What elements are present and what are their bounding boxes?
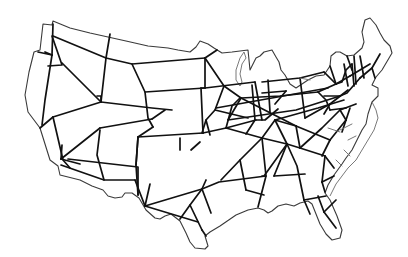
highway-segment bbox=[61, 128, 100, 159]
highway-segment bbox=[262, 138, 287, 144]
highway-segment bbox=[325, 156, 334, 168]
highway-segment bbox=[205, 82, 255, 88]
highway-segment bbox=[101, 58, 106, 102]
highway-segment bbox=[360, 54, 380, 78]
highway-segment bbox=[202, 189, 211, 213]
highway-segment bbox=[100, 119, 152, 128]
highway-segment bbox=[180, 189, 202, 219]
highway-segment bbox=[138, 133, 203, 137]
highway-segment bbox=[262, 91, 286, 93]
secondary-road-segment bbox=[336, 160, 342, 166]
highway-segment bbox=[274, 174, 305, 176]
highway-segment bbox=[97, 130, 135, 180]
highway-segment bbox=[296, 126, 300, 148]
highway-segment bbox=[372, 68, 375, 78]
highway-segment bbox=[268, 80, 270, 112]
highway-segment bbox=[101, 102, 172, 110]
map-canvas bbox=[0, 0, 408, 257]
highway-segment bbox=[61, 165, 104, 180]
highway-segment bbox=[61, 145, 62, 159]
highway-segment bbox=[340, 104, 356, 110]
highway-segment bbox=[145, 206, 198, 222]
highway-segment bbox=[201, 88, 203, 133]
highway-segment bbox=[346, 108, 350, 120]
highway-segment bbox=[132, 64, 153, 127]
highway-segment bbox=[53, 102, 101, 117]
highway-segment bbox=[296, 126, 330, 140]
highway-segment bbox=[135, 180, 145, 206]
highway-segment bbox=[300, 148, 325, 156]
highway-segment bbox=[226, 128, 262, 138]
highway-segment bbox=[191, 142, 200, 150]
highway-segment bbox=[240, 160, 246, 190]
lake-michigan-outline bbox=[236, 52, 246, 86]
highway-segment bbox=[262, 120, 275, 138]
highway-segment bbox=[190, 205, 202, 230]
highway-segment bbox=[145, 88, 205, 92]
highway-segment bbox=[258, 138, 266, 207]
highway-segment bbox=[340, 110, 346, 120]
highway-segment bbox=[354, 56, 356, 84]
highway-segment bbox=[322, 140, 330, 156]
highway-segment bbox=[202, 176, 266, 189]
highway-segment bbox=[152, 110, 165, 119]
highway-segment bbox=[330, 120, 346, 140]
highway-segment bbox=[252, 85, 255, 120]
highway-segment bbox=[304, 196, 326, 200]
secondary-road-segment bbox=[348, 136, 356, 140]
highway-network bbox=[38, 24, 380, 236]
highway-segment bbox=[53, 36, 106, 58]
highway-segment bbox=[106, 58, 205, 64]
highway-segment bbox=[318, 196, 324, 212]
highway-segment bbox=[203, 128, 226, 133]
highway-segment bbox=[145, 184, 150, 206]
highway-segment bbox=[62, 63, 101, 102]
highway-segment bbox=[48, 36, 62, 66]
highway-segment bbox=[201, 58, 205, 88]
highway-segment bbox=[300, 110, 340, 148]
highway-segment bbox=[106, 34, 110, 58]
highway-segment bbox=[322, 182, 325, 192]
us-highway-map bbox=[0, 0, 408, 257]
secondary-road-segment bbox=[300, 78, 310, 80]
highway-segment bbox=[205, 50, 217, 58]
highway-segment bbox=[322, 156, 325, 182]
highway-segment bbox=[318, 84, 336, 92]
highway-segment bbox=[215, 110, 248, 118]
east-coast-inner-outline bbox=[330, 102, 378, 196]
highway-segment bbox=[287, 144, 304, 200]
highway-segment bbox=[324, 212, 336, 228]
us-outline bbox=[25, 18, 392, 249]
highway-segment bbox=[221, 138, 262, 180]
highway-segment bbox=[145, 189, 202, 206]
highway-segment bbox=[202, 230, 206, 236]
